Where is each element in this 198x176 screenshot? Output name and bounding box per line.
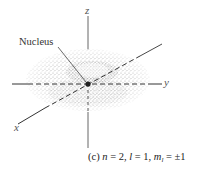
caption-l-value: 1 xyxy=(143,151,148,162)
nucleus-dot xyxy=(85,81,90,86)
caption-l-symbol: l xyxy=(129,151,132,162)
x-axis-label: x xyxy=(14,122,19,133)
figure-caption: (c) n = 2, l = 1, ml = ±1 xyxy=(88,152,186,164)
electron-cloud xyxy=(26,49,150,111)
caption-ml-value: ±1 xyxy=(175,151,186,162)
caption-panel: (c) xyxy=(88,151,100,162)
z-axis-label: z xyxy=(85,5,89,16)
orbital-diagram-canvas xyxy=(0,0,198,176)
nucleus-label: Nucleus xyxy=(19,37,53,48)
x-axis-upper xyxy=(140,44,162,56)
caption-ml-subscript: l xyxy=(161,156,163,164)
caption-n-symbol: n xyxy=(102,151,107,162)
caption-n-value: 2 xyxy=(119,151,124,162)
orbital-diagram: z y x Nucleus (c) n = 2, l = 1, ml = ±1 xyxy=(0,0,198,176)
x-axis-lower xyxy=(18,108,45,124)
y-axis-label: y xyxy=(164,77,169,88)
